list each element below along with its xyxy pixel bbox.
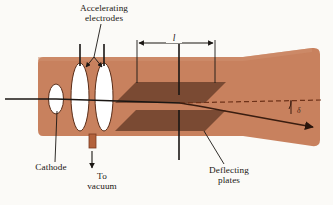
label-cathode: Cathode <box>22 163 80 173</box>
leader-accelerating-stem <box>94 24 101 57</box>
label-deflecting-plates: Deflecting plates <box>192 166 266 186</box>
accelerating-electrode-second <box>95 63 113 131</box>
label-accelerating-electrodes: Accelerating electrodes <box>57 4 151 24</box>
crt-figure: Accelerating electrodes Cathode To vacuu… <box>0 0 333 205</box>
label-to-vacuum: To vacuum <box>73 172 131 192</box>
label-deflection-angle-delta: δ <box>297 107 309 115</box>
crt-diagram-svg <box>0 0 333 205</box>
vacuum-port <box>89 134 96 148</box>
tube-screen-flare <box>243 48 320 146</box>
label-length-l: l <box>166 33 182 43</box>
accelerating-electrode-first <box>71 63 89 131</box>
